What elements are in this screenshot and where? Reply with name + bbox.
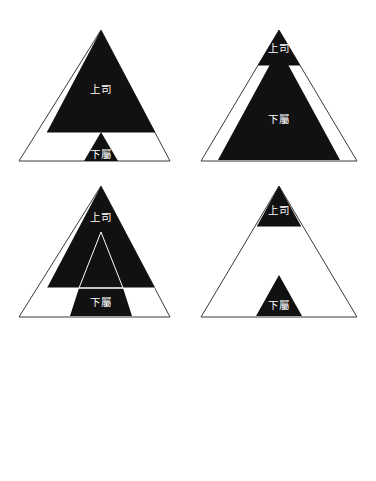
page-canvas: 上司 下屬 上司 下屬 bbox=[0, 0, 376, 481]
figure-2-subordinate-label: 下屬 bbox=[268, 113, 289, 125]
figure-2-superior-label: 上司 bbox=[268, 42, 289, 54]
figure-1-superior-label: 上司 bbox=[90, 83, 111, 95]
figure-4-subordinate-label: 下屬 bbox=[268, 299, 289, 311]
figure-4-superior-label: 上司 bbox=[268, 204, 289, 216]
figure-1-subordinate-label: 下屬 bbox=[90, 148, 111, 160]
figure-3-subordinate-label: 下屬 bbox=[90, 296, 111, 308]
figure-2-pyramid-small-cap-large-core: 上司 下屬 bbox=[188, 8, 376, 178]
figure-3-pyramid-outline-core: 上司 下屬 bbox=[0, 170, 188, 340]
figure-grid: 上司 下屬 上司 下屬 bbox=[0, 0, 376, 340]
figure-1-pyramid-top-heavy: 上司 下屬 bbox=[0, 14, 188, 184]
figure-1-superior-region bbox=[47, 30, 155, 132]
figure-3-superior-label: 上司 bbox=[90, 211, 111, 223]
figure-4-pyramid-two-small-caps: 上司 下屬 bbox=[188, 170, 376, 340]
figure-3-superior-region bbox=[47, 186, 155, 288]
blank-lower-area bbox=[0, 340, 376, 481]
